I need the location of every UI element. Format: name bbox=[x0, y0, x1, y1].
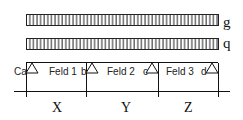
load-bar-q bbox=[27, 39, 219, 50]
continuous-beam-diagram: g q Ca b c d Feld 1 Feld 2 Feld 3 X Y Z bbox=[0, 0, 243, 120]
support-a-pin-icon bbox=[26, 63, 38, 73]
span-label-feld-2: Feld 2 bbox=[107, 66, 135, 77]
support-label-b: b bbox=[81, 66, 87, 77]
span-label-feld-3: Feld 3 bbox=[166, 66, 194, 77]
dimension-label-z: Z bbox=[184, 100, 193, 115]
support-label-d: d bbox=[201, 66, 207, 77]
support-d-roller-icon bbox=[206, 63, 218, 73]
support-b-roller-icon bbox=[86, 63, 98, 73]
load-label-q: q bbox=[223, 35, 231, 51]
support-label-c: c bbox=[143, 66, 148, 77]
dimension-label-y: Y bbox=[121, 100, 131, 115]
support-label-a: Ca bbox=[14, 66, 27, 77]
span-label-feld-1: Feld 1 bbox=[49, 66, 77, 77]
load-label-g: g bbox=[223, 14, 231, 30]
dimension-label-x: X bbox=[52, 100, 62, 115]
load-bar-g bbox=[27, 15, 219, 26]
